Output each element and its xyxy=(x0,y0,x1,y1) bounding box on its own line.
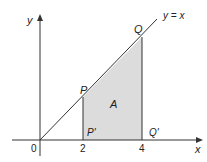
region-a-label: A xyxy=(109,98,117,110)
point-p-prime-label: P' xyxy=(87,127,97,138)
tick-label-2: 2 xyxy=(80,143,86,154)
point-p-label: P xyxy=(80,84,88,96)
tick-label-4: 4 xyxy=(139,143,145,154)
diagram-canvas: y x 0 2 4 y = x P Q P' Q' A xyxy=(0,0,207,162)
point-q-prime-label: Q' xyxy=(149,127,160,138)
line-label: y = x xyxy=(162,10,185,21)
origin-label: 0 xyxy=(31,143,37,154)
y-axis-label: y xyxy=(26,14,34,26)
y-axis-arrow-icon xyxy=(37,14,43,21)
point-q-label: Q xyxy=(134,23,143,35)
x-axis-label: x xyxy=(194,143,201,155)
shaded-region-a xyxy=(83,37,142,140)
